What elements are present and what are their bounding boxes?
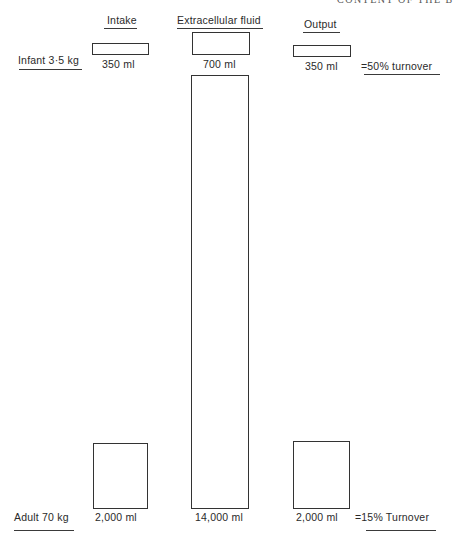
- adult-intake-value: 2,000 ml: [95, 511, 137, 523]
- infant-output-box: [293, 45, 351, 57]
- adult-turnover: =15% Turnover: [355, 511, 429, 523]
- running-head: CONTENT OF THE B: [337, 0, 453, 5]
- infant-ecf-value: 700 ml: [203, 58, 236, 70]
- adult-ecf-box: [191, 75, 249, 509]
- adult-ecf-value: 14,000 ml: [195, 511, 243, 523]
- column-header-ecf: Extracellular fluid: [177, 14, 261, 26]
- adult-output-box: [293, 441, 350, 509]
- column-header-intake-underline: [104, 28, 137, 29]
- adult-label: Adult 70 kg: [14, 511, 69, 523]
- column-header-output: Output: [304, 18, 337, 30]
- column-header-output-underline: [303, 32, 340, 33]
- infant-intake-box: [92, 43, 149, 55]
- infant-label: Infant 3·5 kg: [18, 54, 79, 66]
- adult-turnover-underline: [366, 530, 436, 531]
- infant-turnover: =50% turnover: [361, 60, 432, 72]
- infant-ecf-box: [192, 32, 250, 55]
- infant-output-value: 350 ml: [305, 60, 338, 72]
- adult-label-underline: [14, 530, 74, 531]
- adult-output-value: 2,000 ml: [296, 511, 338, 523]
- column-header-intake: Intake: [107, 14, 137, 26]
- infant-intake-value: 350 ml: [102, 58, 135, 70]
- adult-intake-box: [93, 443, 148, 509]
- column-header-ecf-underline: [177, 28, 263, 29]
- infant-turnover-underline: [364, 74, 440, 75]
- infant-label-underline: [19, 69, 82, 70]
